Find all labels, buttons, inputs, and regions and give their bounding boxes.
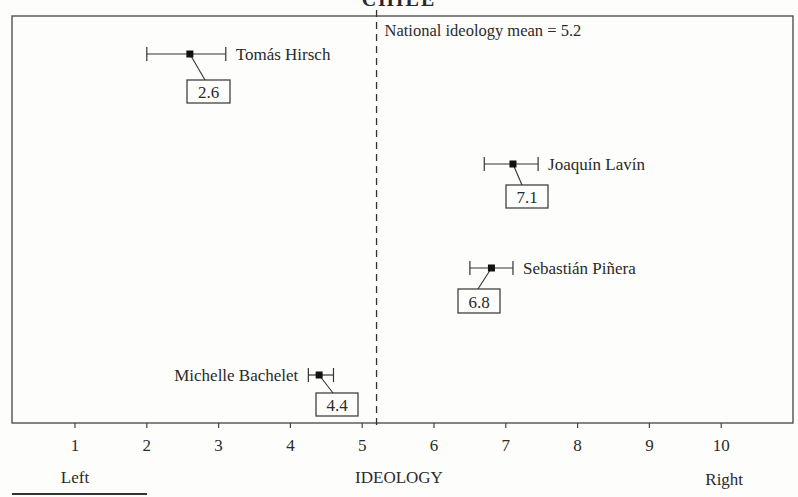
x-axis-title: IDEOLOGY bbox=[355, 468, 443, 487]
x-tick-label: 3 bbox=[214, 436, 223, 455]
candidate-name: Sebastián Piñera bbox=[523, 259, 636, 278]
reference-line: National ideology mean = 5.2 bbox=[377, 10, 582, 425]
candidate-point: 6.8Sebastián Piñera bbox=[458, 259, 636, 313]
value-label: 2.6 bbox=[198, 83, 219, 102]
candidate-name: Joaquín Lavín bbox=[548, 155, 645, 174]
x-tick-label: 5 bbox=[358, 436, 367, 455]
point-marker bbox=[316, 372, 323, 379]
plot-frame bbox=[12, 16, 793, 423]
x-tick-label: 6 bbox=[430, 436, 439, 455]
candidate-point: 7.1Joaquín Lavín bbox=[484, 155, 645, 208]
value-label: 4.4 bbox=[326, 396, 348, 415]
x-axis-right-label: Right bbox=[705, 470, 743, 489]
candidate-name: Michelle Bachelet bbox=[174, 366, 298, 385]
candidate-name: Tomás Hirsch bbox=[236, 45, 331, 64]
point-marker bbox=[488, 265, 495, 272]
leader-line bbox=[190, 54, 205, 80]
value-label: 7.1 bbox=[516, 188, 537, 207]
mean-label: National ideology mean = 5.2 bbox=[385, 21, 582, 40]
x-axis-left-label: Left bbox=[61, 468, 90, 487]
value-label: 6.8 bbox=[468, 293, 489, 312]
candidate-point: 2.6Tomás Hirsch bbox=[147, 45, 331, 103]
point-marker bbox=[509, 161, 516, 168]
x-tick-label: 7 bbox=[502, 436, 511, 455]
candidate-points: 2.6Tomás Hirsch7.1Joaquín Lavín6.8Sebast… bbox=[147, 45, 646, 416]
x-tick-label: 9 bbox=[645, 436, 654, 455]
point-marker bbox=[186, 51, 193, 58]
x-tick-label: 10 bbox=[713, 436, 730, 455]
x-axis: 12345678910LeftIDEOLOGYRight bbox=[61, 423, 744, 489]
chart-title: CHILE bbox=[362, 0, 436, 10]
candidate-point: 4.4Michelle Bachelet bbox=[174, 366, 358, 416]
x-tick-label: 8 bbox=[573, 436, 582, 455]
x-tick-label: 2 bbox=[143, 436, 152, 455]
x-tick-label: 4 bbox=[286, 436, 295, 455]
ideology-chart: CHILE 12345678910LeftIDEOLOGYRight Natio… bbox=[0, 0, 798, 497]
x-tick-label: 1 bbox=[71, 436, 80, 455]
